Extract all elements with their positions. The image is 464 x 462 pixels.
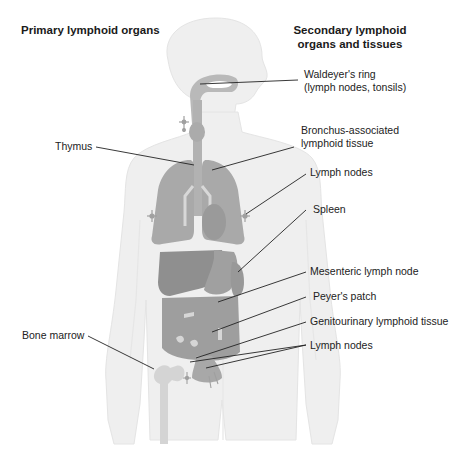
cervical-lymph-node: [179, 116, 189, 132]
label-mesenteric-lymph-node: Mesenteric lymph node: [310, 265, 419, 278]
label-lymph-nodes-axillary: Lymph nodes: [310, 166, 373, 179]
secondary-organs-header: Secondary lymphoid organs and tissues: [288, 23, 412, 51]
trachea: [193, 100, 202, 216]
label-lymph-nodes-inguinal: Lymph nodes: [310, 339, 373, 352]
secondary-header-line2: organs and tissues: [288, 37, 412, 51]
label-bronchus-line2: lymphoid tissue: [301, 137, 399, 150]
label-spleen: Spleen: [313, 203, 346, 216]
heart: [202, 204, 226, 240]
label-peyers-patch: Peyer's patch: [313, 290, 376, 303]
small-intestine: [162, 296, 240, 361]
label-waldeyers-ring-line2: (lymph nodes, tonsils): [304, 81, 406, 94]
primary-organs-header: Primary lymphoid organs: [21, 23, 160, 37]
label-bronchus-line1: Bronchus-associated: [301, 124, 399, 137]
label-bone-marrow: Bone marrow: [22, 329, 84, 342]
label-waldeyers-ring-line1: Waldeyer's ring: [304, 68, 406, 81]
secondary-header-line1: Secondary lymphoid: [288, 23, 412, 37]
label-genitourinary-tissue: Genitourinary lymphoid tissue: [310, 315, 448, 328]
lymphoid-organs-diagram: Primary lymphoid organs Secondary lympho…: [0, 0, 464, 462]
label-bronchus-associated: Bronchus-associated lymphoid tissue: [301, 124, 399, 150]
label-thymus: Thymus: [55, 140, 92, 153]
thymus-organ: [189, 122, 205, 142]
label-waldeyers-ring: Waldeyer's ring (lymph nodes, tonsils): [304, 68, 406, 94]
